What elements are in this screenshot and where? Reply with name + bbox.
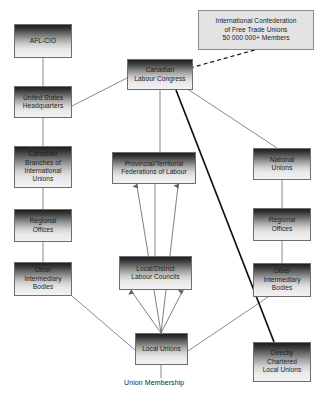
union-membership-caption: Union Membership [124,379,184,386]
node-regional-offices-right-line-1: Regional [269,216,295,224]
node-regional-offices-left[interactable]: Regional Offices [14,209,72,242]
edge-ushq-to-clc [72,78,127,106]
node-canadian-branches-of-international-unions[interactable]: Canadian Branches of International Union… [14,146,72,188]
node-regional-offices-right[interactable]: Regional Offices [253,208,311,241]
node-national-unions-line-1: National [270,156,295,164]
node-local-unions[interactable]: Local Unions [135,333,188,365]
node-directly-chartered-line-3: Local Unions [263,366,302,374]
node-other-intermediary-bodies-right[interactable]: Other Intermediary Bodies [253,263,311,297]
node-canadian-labour-congress[interactable]: Canadian Labour Congress [127,59,193,90]
node-regional-offices-left-line-1: Regional [30,217,56,225]
node-regional-offices-right-line-2: Offices [269,225,295,233]
node-national-unions-line-2: Unions [270,164,295,172]
node-other-bodies-right-line-1: Other [263,267,300,275]
edge-clc-to-icftu-dashed [190,48,262,68]
node-us-hq-line-2: Headquarters [23,102,64,110]
node-icftu-line-1: International Confederation [216,17,297,25]
node-other-intermediary-bodies-left[interactable]: Other Intermediary Bodies [14,262,72,296]
node-other-bodies-left-line-1: Other [24,266,61,274]
node-directly-chartered-local-unions[interactable]: Directly Chartered Local Unions [253,342,311,382]
node-provincial-territorial-federations-of-labour[interactable]: Provincial/Territorial Federations of La… [112,152,196,184]
edge-locals-to-councils-right [161,292,182,333]
node-cdn-branches-line-3: International [25,167,62,175]
node-united-states-headquarters[interactable]: United States Headquarters [14,86,72,118]
node-clc-line-1: Canadian [134,66,185,74]
node-cdn-branches-line-1: Canadian [25,150,62,158]
node-labour-councils-line-1: Local/District [131,265,179,273]
node-us-hq-line-1: United States [23,94,64,102]
edge-locals-to-councils-left [132,292,161,333]
node-labour-councils-line-2: Labour Councils [131,273,179,281]
node-directly-chartered-line-2: Chartered [263,358,302,366]
node-cdn-branches-line-4: Unions [25,175,62,183]
node-national-unions[interactable]: National Unions [253,148,311,180]
node-regional-offices-left-line-2: Offices [30,226,56,234]
node-icftu[interactable]: International Confederation of Free Trad… [198,10,314,50]
node-directly-chartered-line-1: Directly [263,349,302,357]
node-afl-cio-line-1: AFL-CIO [30,37,56,45]
node-icftu-line-2: of Free Trade Unions [216,26,297,34]
edge-clc-to-national [186,88,277,148]
node-prov-fed-line-2: Federations of Labour [121,168,187,176]
node-other-bodies-left-line-3: Bodies [24,283,61,291]
node-afl-cio[interactable]: AFL-CIO [14,24,72,58]
node-icftu-line-3: 50 000 000+ Members [216,34,297,42]
node-local-unions-line-1: Local Unions [142,345,181,353]
node-clc-line-2: Labour Congress [134,75,185,83]
node-prov-fed-line-1: Provincial/Territorial [121,160,187,168]
node-cdn-branches-line-2: Branches of [25,159,62,167]
edge-other-left-to-locals [72,296,135,350]
node-other-bodies-left-line-2: Intermediary [24,275,61,283]
node-local-district-labour-councils[interactable]: Local/District Labour Councils [119,256,192,290]
node-other-bodies-right-line-2: Intermediary [263,276,300,284]
diagram-canvas: AFL-CIO International Confederation of F… [0,0,322,402]
node-other-bodies-right-line-3: Bodies [263,284,300,292]
